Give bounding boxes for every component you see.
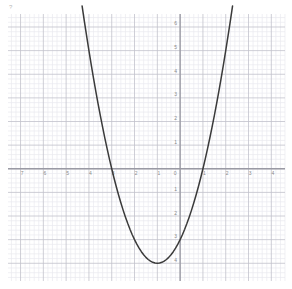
y-tick-label: 3 (174, 233, 177, 239)
x-tick-label: 2 (226, 170, 229, 176)
y-tick-label: 2 (174, 210, 177, 216)
y-tick-label: 1 (174, 186, 177, 192)
x-tick-label: 4 (89, 170, 92, 176)
graph-container: 765432112340 4321123456 ? (0, 0, 292, 289)
x-tick-label: 6 (43, 170, 46, 176)
y-tick-label: 4 (174, 257, 177, 263)
x-tick-label: 4 (271, 170, 274, 176)
y-tick-label: 6 (174, 20, 177, 26)
y-tick-label: 5 (174, 44, 177, 50)
x-tick-label: 2 (135, 170, 138, 176)
x-tick-label-zero: 0 (174, 170, 177, 176)
x-tick-label: 3 (249, 170, 252, 176)
y-tick-label: 4 (174, 68, 177, 74)
x-tick-label: 1 (203, 170, 206, 176)
y-tick-label: 3 (174, 91, 177, 97)
x-tick-label: 1 (157, 170, 160, 176)
x-tick-label: 7 (21, 170, 24, 176)
y-tick-label: 1 (174, 139, 177, 145)
x-tick-label: 5 (66, 170, 69, 176)
y-tick-label: 2 (174, 115, 177, 121)
parabola-plot: 765432112340 4321123456 ? (0, 0, 292, 289)
